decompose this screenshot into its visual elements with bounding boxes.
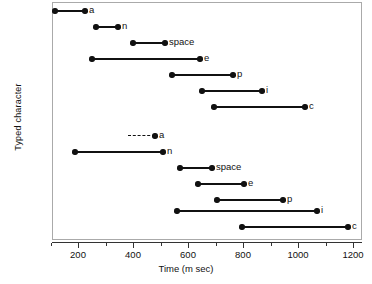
interval-label: p: [287, 193, 292, 204]
interval-end-marker: [302, 104, 307, 109]
interval-label: space: [216, 161, 241, 172]
interval-label: e: [204, 52, 209, 63]
interval-end-marker: [152, 133, 157, 138]
x-tick-major: [243, 243, 244, 248]
interval-start-marker: [239, 224, 244, 229]
interval-label: c: [352, 220, 357, 231]
interval-end-marker: [162, 40, 167, 45]
interval-line: [55, 10, 85, 12]
interval-row: i: [0, 85, 372, 97]
x-tick-label: 1200: [342, 249, 363, 260]
interval-start-marker: [93, 24, 98, 29]
x-tick-minor: [161, 243, 162, 246]
interval-label: i: [321, 204, 323, 215]
x-axis-title: Time (m sec): [0, 263, 372, 274]
x-tick-label: 600: [180, 249, 196, 260]
interval-label: n: [122, 20, 127, 31]
x-tick-minor: [51, 243, 52, 246]
interval-end-marker: [230, 72, 235, 77]
interval-end-marker: [280, 197, 285, 202]
x-tick-major: [133, 243, 134, 248]
interval-start-marker: [177, 165, 182, 170]
x-tick-label: 1000: [287, 249, 308, 260]
interval-row: e: [0, 53, 372, 65]
interval-line: [133, 42, 165, 44]
interval-start-marker: [195, 181, 200, 186]
interval-end-marker: [160, 149, 165, 154]
interval-row: c: [0, 101, 372, 113]
interval-row: a: [0, 5, 372, 17]
interval-line: [242, 226, 348, 228]
interval-start-marker: [174, 208, 179, 213]
interval-end-marker: [259, 88, 264, 93]
interval-row: space: [0, 162, 372, 174]
x-tick-minor: [326, 243, 327, 246]
interval-line: [180, 167, 212, 169]
interval-start-marker: [72, 149, 77, 154]
interval-label: p: [237, 68, 242, 79]
interval-row: i: [0, 205, 372, 217]
interval-line: [217, 199, 283, 201]
interval-end-marker: [197, 56, 202, 61]
interval-label: i: [266, 84, 268, 95]
interval-row: space: [0, 37, 372, 49]
interval-label: c: [309, 100, 314, 111]
interval-row: n: [0, 146, 372, 158]
interval-label: n: [167, 145, 172, 156]
interval-start-marker: [199, 88, 204, 93]
interval-label: a: [159, 129, 164, 140]
interval-row: p: [0, 69, 372, 81]
interval-row: a: [0, 130, 372, 142]
x-tick-label: 800: [235, 249, 251, 260]
interval-row: e: [0, 178, 372, 190]
interval-start-marker: [211, 104, 216, 109]
interval-start-marker: [214, 197, 219, 202]
interval-line: [214, 106, 305, 108]
interval-start-marker: [130, 40, 135, 45]
interval-label: a: [89, 4, 94, 15]
x-tick-minor: [106, 243, 107, 246]
interval-label: space: [169, 36, 194, 47]
interval-row: c: [0, 221, 372, 233]
interval-line: [128, 135, 155, 136]
interval-line: [92, 58, 200, 60]
chart-root: Typed character 20040060080010001200 ans…: [0, 0, 372, 284]
interval-row: n: [0, 21, 372, 33]
interval-line: [202, 90, 262, 92]
interval-line: [75, 151, 163, 153]
interval-line: [177, 210, 317, 212]
interval-start-marker: [52, 8, 57, 13]
x-tick-minor: [271, 243, 272, 246]
x-tick-label: 400: [125, 249, 141, 260]
x-tick-major: [78, 243, 79, 248]
interval-start-marker: [169, 72, 174, 77]
x-tick-major: [353, 243, 354, 248]
interval-end-marker: [115, 24, 120, 29]
interval-label: e: [248, 177, 253, 188]
x-tick-major: [188, 243, 189, 248]
x-tick-label: 200: [70, 249, 86, 260]
x-tick-minor: [216, 243, 217, 246]
x-axis-line: [52, 242, 362, 243]
interval-line: [198, 183, 244, 185]
x-tick-major: [298, 243, 299, 248]
interval-end-marker: [314, 208, 319, 213]
interval-end-marker: [82, 8, 87, 13]
interval-end-marker: [345, 224, 350, 229]
interval-line: [172, 74, 233, 76]
interval-end-marker: [209, 165, 214, 170]
interval-end-marker: [241, 181, 246, 186]
interval-start-marker: [89, 56, 94, 61]
